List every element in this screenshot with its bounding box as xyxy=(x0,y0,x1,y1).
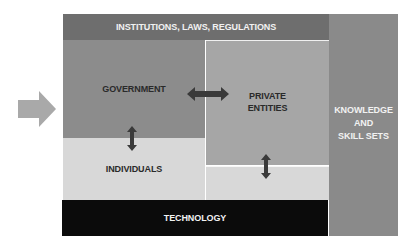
technology-band: TECHNOLOGY xyxy=(62,200,328,236)
double-arrow-horizontal-icon xyxy=(187,87,229,101)
knowledge-label-line1: KNOWLEDGE xyxy=(329,104,398,116)
knowledge-skill-sets-column: KNOWLEDGE AND SKILL SETS xyxy=(329,14,398,236)
double-arrow-vertical-icon xyxy=(127,126,137,151)
government-label: GOVERNMENT xyxy=(63,83,205,95)
right-arrow-icon xyxy=(17,91,57,127)
private-entities-block: PRIVATE ENTITIES xyxy=(206,40,329,165)
knowledge-label-line2: AND xyxy=(329,117,398,129)
institutions-label: INSTITUTIONS, LAWS, REGULATIONS xyxy=(63,21,329,33)
individuals-label: INDIVIDUALS xyxy=(63,163,205,175)
technology-label: TECHNOLOGY xyxy=(62,212,328,224)
institutions-laws-regulations-band: INSTITUTIONS, LAWS, REGULATIONS xyxy=(63,14,329,40)
double-arrow-vertical-icon xyxy=(261,154,271,179)
knowledge-label-line3: SKILL SETS xyxy=(329,130,398,142)
government-block: GOVERNMENT xyxy=(63,40,205,138)
private-entities-label-line2: ENTITIES xyxy=(206,102,329,114)
